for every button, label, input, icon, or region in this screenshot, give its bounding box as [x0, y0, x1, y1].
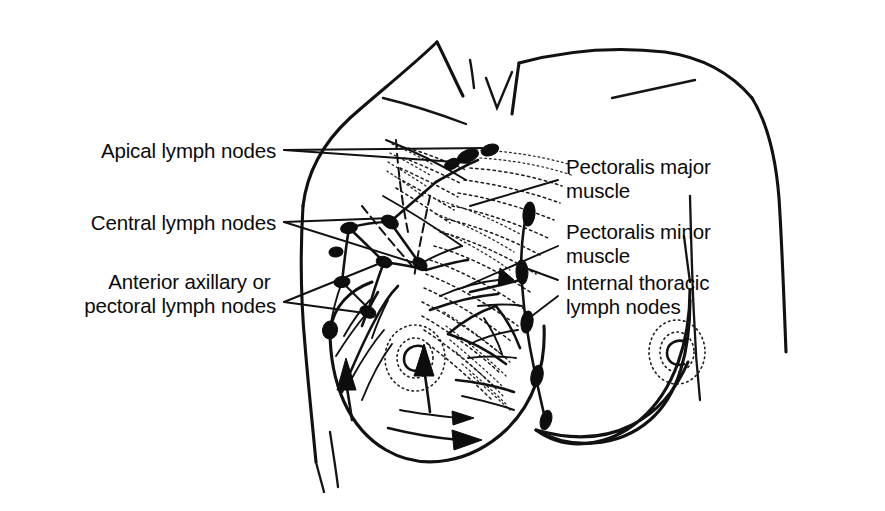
label-pectoralis-minor-line-2: muscle: [566, 244, 630, 267]
label-pectoralis-major-line-2: muscle: [566, 179, 630, 202]
figure-background: [0, 0, 885, 511]
label-apical-line-1: Apical lymph nodes: [101, 139, 276, 162]
label-pectoralis-minor-line-1: Pectoralis minor: [566, 220, 711, 243]
label-anterior-axillary-line-1: Anterior axillary or: [108, 270, 271, 293]
label-anterior-axillary-line-2: pectoral lymph nodes: [84, 294, 276, 317]
label-apical-lymph-nodes: Apical lymph nodes: [101, 139, 276, 162]
label-central-lymph-nodes: Central lymph nodes: [91, 211, 276, 234]
label-internal-thoracic-line-1: Internal thoracic: [566, 271, 709, 294]
anatomical-figure: Apical lymph nodes Central lymph nodes A…: [0, 0, 885, 511]
label-internal-thoracic-line-2: lymph nodes: [566, 295, 681, 318]
label-anterior-axillary-pectoral-lymph-nodes: Anterior axillary or pectoral lymph node…: [84, 270, 276, 317]
breast-lymphatic-drainage-diagram: Apical lymph nodes Central lymph nodes A…: [0, 0, 885, 511]
label-pectoralis-major-line-1: Pectoralis major: [566, 155, 711, 178]
label-central-line-1: Central lymph nodes: [91, 211, 276, 234]
